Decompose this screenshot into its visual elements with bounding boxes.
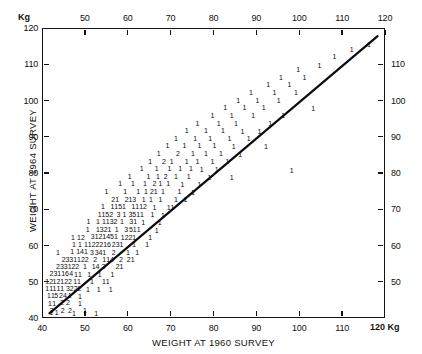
data-point: 1 xyxy=(105,188,109,195)
tick-label-right: 100 xyxy=(391,96,405,106)
data-point: 4 xyxy=(69,270,73,277)
data-point: 1 xyxy=(131,256,135,263)
unit-label-bottom-right: 120 Kg xyxy=(370,322,400,332)
unit-label-top-left: Kg xyxy=(18,12,30,22)
data-point: 1 xyxy=(122,203,126,210)
data-point: 1 xyxy=(225,158,229,165)
data-point: 1 xyxy=(185,127,189,134)
data-point: 1 xyxy=(191,149,195,156)
tick-mark xyxy=(213,30,214,35)
tick-mark xyxy=(127,311,128,316)
data-point: 1 xyxy=(97,285,101,292)
data-point: 4 xyxy=(95,263,99,270)
tick-label-bottom: 90 xyxy=(252,323,262,333)
data-point: 1 xyxy=(264,143,268,150)
data-points-layer: 2112211111221115241111111322211112121221… xyxy=(43,29,384,317)
tick-label-top: 80 xyxy=(209,13,219,23)
data-point: 1 xyxy=(185,157,189,164)
data-point: 1 xyxy=(157,149,161,156)
data-point: 1 xyxy=(367,40,371,47)
data-point: 2 xyxy=(112,248,116,255)
data-point: 1 xyxy=(243,104,247,111)
data-point: 1 xyxy=(142,195,146,202)
tick-label-bottom: 50 xyxy=(80,323,90,333)
data-point: 1 xyxy=(219,150,223,157)
tick-label-bottom: 70 xyxy=(166,323,176,333)
data-point: 1 xyxy=(50,309,54,316)
data-point: 1 xyxy=(277,96,281,103)
data-point: 2 xyxy=(119,256,123,263)
data-point: 1 xyxy=(166,180,170,187)
data-point: 1 xyxy=(281,112,285,119)
data-point: 1 xyxy=(165,142,169,149)
tick-label-top: 110 xyxy=(335,13,349,23)
data-point: 1 xyxy=(111,270,115,277)
data-point: 1 xyxy=(174,134,178,141)
data-point: 1 xyxy=(148,157,152,164)
data-point: 1 xyxy=(240,127,244,134)
data-point: 2 xyxy=(77,285,81,292)
data-point: 1 xyxy=(288,81,292,88)
tick-label-right: 50 xyxy=(391,277,401,287)
data-point: 1 xyxy=(71,233,75,240)
tick-label-top: 90 xyxy=(252,13,262,23)
tick-label-bottom: 40 xyxy=(37,323,47,333)
data-point: 1 xyxy=(72,240,76,247)
data-point: 1 xyxy=(101,203,105,210)
tick-mark xyxy=(341,311,342,316)
data-point: 2 xyxy=(114,218,118,225)
data-point: 1 xyxy=(171,203,175,210)
data-point: 1 xyxy=(87,270,91,277)
data-point: 1 xyxy=(195,157,199,164)
data-point: 1 xyxy=(204,149,208,156)
data-point: 1 xyxy=(290,166,294,173)
tick-mark xyxy=(378,136,383,137)
data-point: 1 xyxy=(156,172,160,179)
data-point: 1 xyxy=(150,211,154,218)
data-point: 1 xyxy=(236,96,240,103)
y-axis-title: WEIGHT AT 1964 SURVEY xyxy=(27,61,38,281)
tick-mark xyxy=(299,311,300,316)
data-point: 1 xyxy=(83,263,87,270)
data-point: 1 xyxy=(303,73,307,80)
data-point: 1 xyxy=(177,188,181,195)
data-point: 1 xyxy=(84,248,88,255)
tick-mark xyxy=(341,30,342,35)
data-point: 1 xyxy=(98,270,102,277)
data-point: 1 xyxy=(154,188,158,195)
data-point: 1 xyxy=(94,310,98,317)
tick-mark xyxy=(127,30,128,35)
data-point: 1 xyxy=(145,241,149,248)
data-point: 3 xyxy=(132,195,136,202)
data-point: 1 xyxy=(131,180,135,187)
tick-mark xyxy=(44,64,49,65)
data-point: 1 xyxy=(148,234,152,241)
data-point: 1 xyxy=(204,127,208,134)
data-point: 1 xyxy=(183,142,187,149)
tick-mark xyxy=(378,245,383,246)
data-point: 1 xyxy=(123,188,127,195)
data-point: 1 xyxy=(108,226,112,233)
data-point: 1 xyxy=(159,196,163,203)
data-point: 1 xyxy=(170,157,174,164)
tick-mark xyxy=(44,209,49,210)
data-point: 1 xyxy=(294,89,298,96)
data-point: 1 xyxy=(109,285,113,292)
data-point: 1 xyxy=(147,172,151,179)
data-point: 1 xyxy=(120,241,124,248)
data-point: 1 xyxy=(230,111,234,118)
data-point: 1 xyxy=(255,96,259,103)
tick-mark xyxy=(170,30,171,35)
data-point: 2 xyxy=(164,172,168,179)
tick-mark xyxy=(44,136,49,137)
tick-label-right: 60 xyxy=(391,241,401,251)
data-point: 1 xyxy=(143,180,147,187)
data-point: 1 xyxy=(126,248,130,255)
data-point: 1 xyxy=(128,172,132,179)
tick-mark xyxy=(378,172,383,173)
data-point: 4 xyxy=(110,256,114,263)
data-point: 1 xyxy=(249,89,253,96)
data-point: 1 xyxy=(195,119,199,126)
data-point: 1 xyxy=(52,300,56,307)
tick-mark xyxy=(299,30,300,35)
